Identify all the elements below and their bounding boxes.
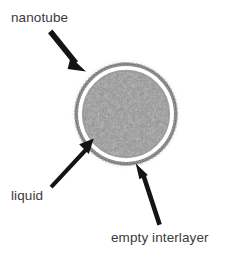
annotation-label-empty-interlayer: empty interlayer	[111, 231, 209, 245]
arrow-liquid	[50, 138, 94, 188]
arrow-empty-interlayer	[136, 164, 162, 226]
arrow-nanotube	[48, 30, 86, 72]
annotation-label-nanotube: nanotube	[11, 11, 68, 25]
figure-canvas: nanotube liquid empty interlayer	[0, 0, 228, 264]
annotation-label-liquid: liquid	[11, 189, 43, 203]
schematic-graphic	[0, 0, 228, 264]
